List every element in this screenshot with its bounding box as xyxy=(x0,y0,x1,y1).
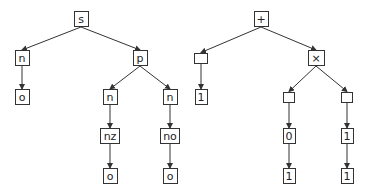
right-tree-node-e2 xyxy=(283,92,295,103)
right-tree-node-one1: 1 xyxy=(195,89,208,105)
left-tree-node-o3: o xyxy=(163,168,178,184)
right-tree-node-zero: 0 xyxy=(283,128,296,144)
edge-arrow xyxy=(201,27,261,53)
left-tree-node-o2: o xyxy=(103,168,118,184)
diagram-canvas: snopnnnznooo+1×0111 xyxy=(0,0,368,196)
edge-arrow xyxy=(140,66,170,89)
right-tree-node-e1 xyxy=(194,53,208,64)
left-tree-node-n2: n xyxy=(103,89,118,105)
right-tree-node-e3 xyxy=(341,92,353,103)
edge-arrow xyxy=(289,66,316,92)
edge-layer xyxy=(0,0,368,196)
right-tree-node-one2: 1 xyxy=(341,128,354,144)
edge-arrow xyxy=(316,66,347,92)
left-tree-node-n1: n xyxy=(15,50,30,66)
edge-arrow xyxy=(261,27,316,50)
edge-arrow xyxy=(81,27,140,50)
left-tree-node-o1: o xyxy=(15,89,30,105)
left-tree-node-p: p xyxy=(133,50,148,66)
edge-arrow xyxy=(110,66,140,89)
right-tree-node-one3: 1 xyxy=(283,168,296,184)
left-tree-node-n3: n xyxy=(163,89,178,105)
left-tree-node-s: s xyxy=(74,11,89,27)
right-tree-node-times: × xyxy=(308,50,325,66)
left-tree-node-no: no xyxy=(160,128,180,144)
right-tree-node-one4: 1 xyxy=(341,168,354,184)
left-tree-node-nz: nz xyxy=(100,128,120,144)
edge-arrow xyxy=(22,27,81,50)
right-tree-node-plus: + xyxy=(254,11,269,27)
